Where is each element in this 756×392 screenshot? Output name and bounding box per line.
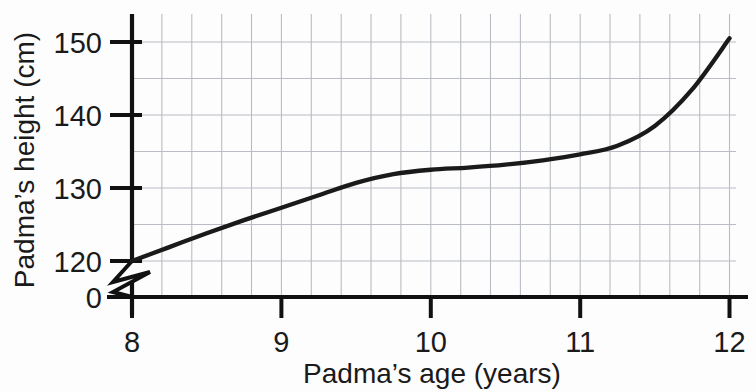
y-tick-label-150: 150 [54,27,102,59]
x-tick-label-11: 11 [565,326,595,358]
x-tick-label-10: 10 [415,326,447,358]
x-axis-title: Padma’s age (years) [303,358,561,389]
line-chart-figure: 150 140 130 120 0 8 9 10 11 12 Padma’s a… [0,0,756,392]
x-tick-label-12: 12 [713,326,745,358]
y-tick-label-120: 120 [54,246,102,278]
y-tick-label-zero: 0 [86,282,102,314]
chart-canvas: 150 140 130 120 0 8 9 10 11 12 Padma’s a… [0,0,756,392]
x-tick-label-8: 8 [124,326,140,358]
y-tick-label-130: 130 [54,173,102,205]
y-tick-label-140: 140 [54,100,102,132]
y-axis-title: Padma’s height (cm) [9,32,40,288]
x-tick-label-9: 9 [273,326,289,358]
x-axis-ticks [132,297,730,318]
